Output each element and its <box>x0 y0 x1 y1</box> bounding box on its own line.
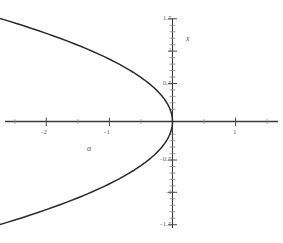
y-axis-label: x <box>186 35 190 43</box>
plot-canvas <box>0 0 283 243</box>
plot-figure: 1.5 1 0.5 -0.5 -1 -1.5 -2 -1 1 x α <box>0 0 283 243</box>
xtick-label-neg1: -1 <box>104 129 110 136</box>
xtick-label-neg2: -2 <box>41 129 47 136</box>
ytick-label-1: 1 <box>158 47 172 54</box>
ytick-label-1p5: 1.5 <box>158 15 172 22</box>
ytick-label-neg0p5: -0.5 <box>151 156 172 163</box>
ytick-label-neg1: -1 <box>154 189 172 196</box>
ytick-label-neg1p5: -1.5 <box>151 221 172 228</box>
ytick-label-0p5: 0.5 <box>155 80 172 87</box>
x-axis-label: α <box>87 145 91 153</box>
xtick-label-pos1: 1 <box>233 129 237 136</box>
